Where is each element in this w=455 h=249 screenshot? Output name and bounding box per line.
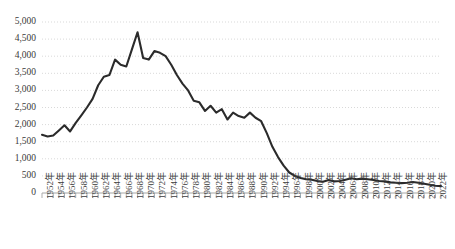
data-series-line (42, 32, 441, 186)
chart-plot-area (0, 0, 455, 249)
line-chart: 05001,0001,5002,0002,5003,0003,5004,0004… (0, 0, 455, 249)
